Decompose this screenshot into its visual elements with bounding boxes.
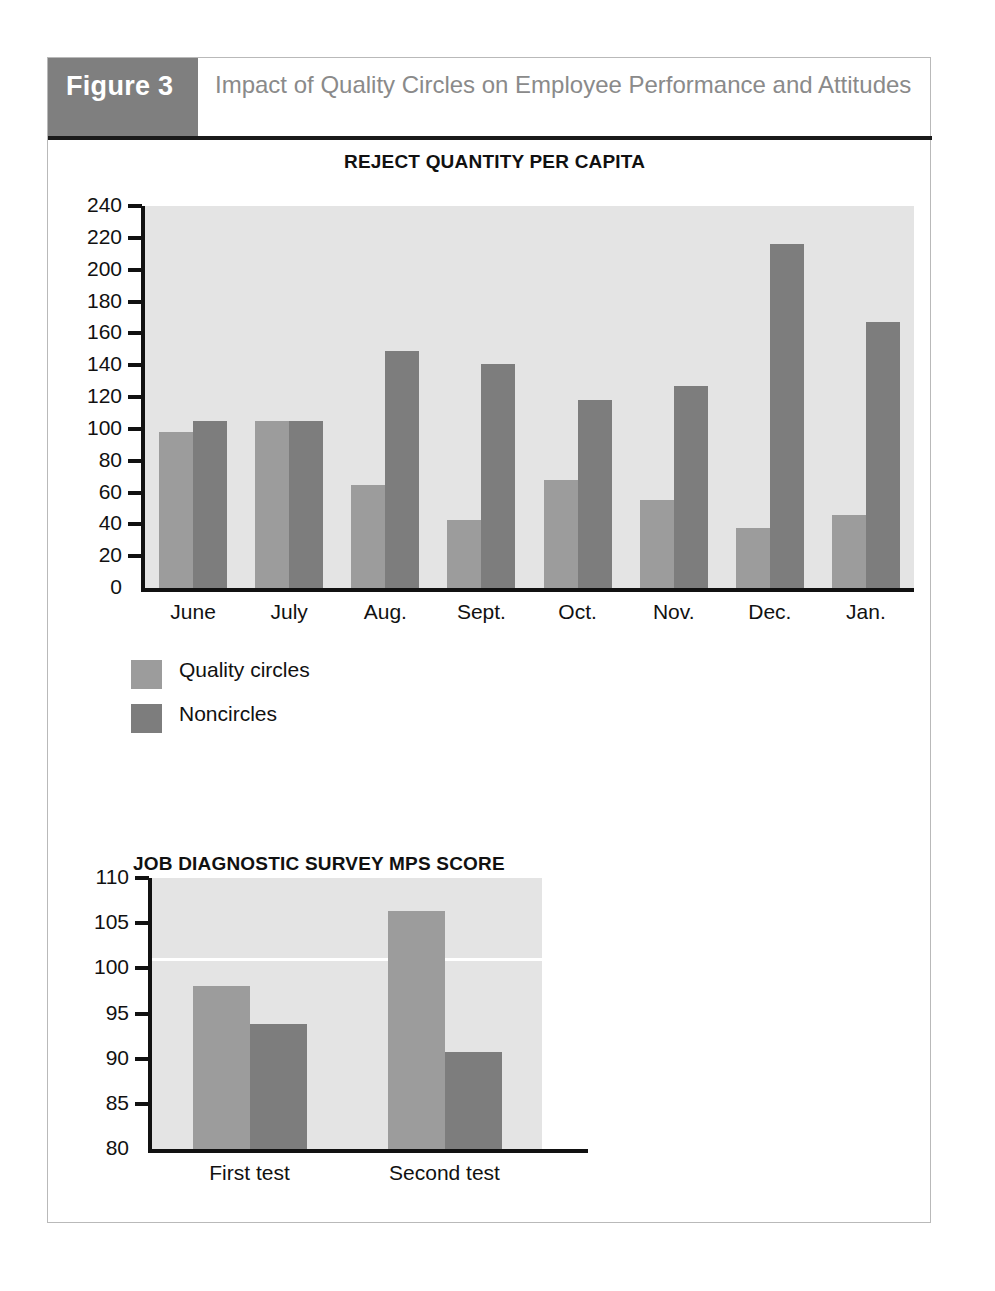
bar-noncircles [289, 421, 323, 588]
bar-noncircles [674, 386, 708, 588]
figure-title: Impact of Quality Circles on Employee Pe… [215, 70, 915, 100]
x-axis-tick-label: Sept. [433, 600, 529, 624]
x-axis-tick-label: Aug. [337, 600, 433, 624]
y-axis-line [148, 878, 152, 1153]
y-axis-tick-label: 140 [74, 352, 122, 376]
y-axis-tick-label: 95 [81, 1001, 129, 1025]
bar-quality-circles [193, 986, 250, 1149]
plot-area [145, 206, 914, 588]
plot-area [152, 878, 542, 1149]
bar-quality-circles [447, 520, 481, 588]
y-axis-tick [128, 427, 142, 431]
y-axis-tick-label: 0 [74, 575, 122, 599]
y-axis-tick [128, 236, 142, 240]
y-axis-tick [135, 1102, 149, 1106]
x-axis-tick-label: July [241, 600, 337, 624]
y-axis-tick [128, 522, 142, 526]
y-axis-tick-label: 110 [81, 865, 129, 889]
y-axis-tick-label: 120 [74, 384, 122, 408]
y-axis-tick [135, 1057, 149, 1061]
y-axis-tick [128, 363, 142, 367]
y-axis-line [141, 206, 145, 592]
reference-line [152, 958, 542, 961]
y-axis-tick [135, 876, 149, 880]
x-axis-tick-label: Oct. [530, 600, 626, 624]
y-axis-tick [135, 921, 149, 925]
bar-noncircles [445, 1052, 502, 1149]
bar-quality-circles [388, 911, 445, 1149]
bar-noncircles [770, 244, 804, 588]
y-axis-tick [128, 268, 142, 272]
y-axis-tick-label: 90 [81, 1046, 129, 1070]
x-axis-tick-label: First test [152, 1161, 347, 1185]
y-axis-tick [128, 204, 142, 208]
bar-quality-circles [159, 432, 193, 588]
x-axis-tick-label: Nov. [626, 600, 722, 624]
y-axis-tick-label: 80 [81, 1136, 129, 1160]
bar-quality-circles [832, 515, 866, 588]
bar-quality-circles [736, 528, 770, 588]
y-axis-tick-label: 60 [74, 480, 122, 504]
y-axis-tick [128, 459, 142, 463]
bar-noncircles [193, 421, 227, 588]
x-axis-line [141, 588, 914, 592]
x-axis-tick-label: June [145, 600, 241, 624]
bar-noncircles [578, 400, 612, 588]
legend-label: Quality circles [179, 658, 310, 682]
y-axis-tick [128, 491, 142, 495]
y-axis-tick-label: 200 [74, 257, 122, 281]
bar-noncircles [250, 1024, 307, 1149]
legend-label: Noncircles [179, 702, 277, 726]
y-axis-tick [128, 300, 142, 304]
figure-header: Figure 3 Impact of Quality Circles on Em… [48, 58, 932, 136]
bar-quality-circles [351, 485, 385, 588]
x-axis-tick-label: Dec. [722, 600, 818, 624]
bar-quality-circles [544, 480, 578, 588]
chart-title: REJECT QUANTITY PER CAPITA [344, 151, 645, 173]
header-divider [48, 136, 932, 140]
bar-quality-circles [640, 500, 674, 588]
y-axis-tick-label: 20 [74, 543, 122, 567]
legend-swatch-noncircles [131, 704, 162, 733]
y-axis-tick [135, 1012, 149, 1016]
y-axis-tick-label: 220 [74, 225, 122, 249]
y-axis-tick-label: 180 [74, 289, 122, 313]
x-axis-tick-label: Second test [347, 1161, 542, 1185]
x-axis-line [148, 1149, 588, 1153]
y-axis-tick [128, 554, 142, 558]
y-axis-tick [135, 966, 149, 970]
y-axis-tick-label: 240 [74, 193, 122, 217]
figure-tag-block: Figure 3 [48, 58, 198, 136]
bar-noncircles [481, 364, 515, 588]
y-axis-tick-label: 85 [81, 1091, 129, 1115]
bar-noncircles [866, 322, 900, 588]
bar-noncircles [385, 351, 419, 588]
bar-quality-circles [255, 421, 289, 588]
figure-box: Figure 3 Impact of Quality Circles on Em… [47, 57, 931, 1223]
y-axis-tick-label: 100 [81, 955, 129, 979]
y-axis-tick-label: 160 [74, 320, 122, 344]
x-axis-tick-label: Jan. [818, 600, 914, 624]
legend-swatch-quality-circles [131, 660, 162, 689]
figure-tag-label: Figure 3 [66, 71, 173, 102]
chart-title: JOB DIAGNOSTIC SURVEY MPS SCORE [133, 853, 505, 875]
y-axis-tick-label: 40 [74, 511, 122, 535]
y-axis-tick-label: 100 [74, 416, 122, 440]
y-axis-tick-label: 105 [81, 910, 129, 934]
y-axis-tick [128, 395, 142, 399]
y-axis-tick [128, 331, 142, 335]
y-axis-tick-label: 80 [74, 448, 122, 472]
